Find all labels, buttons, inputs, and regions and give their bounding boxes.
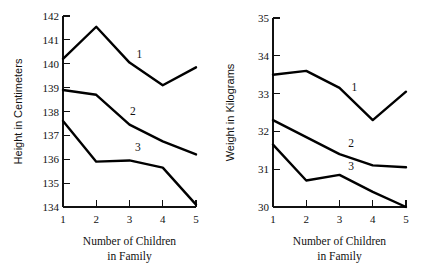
x-axis-title-line1: Number of Children bbox=[83, 235, 177, 247]
y-axis-title: Weight in Kilograms bbox=[224, 63, 236, 161]
series-line-2 bbox=[273, 120, 406, 167]
y-axis-tick-label: 141 bbox=[43, 34, 60, 46]
two-panel-line-chart-figure: 13413513613713813914014114212345123Heigh… bbox=[0, 0, 428, 265]
y-axis-tick-label: 31 bbox=[258, 163, 269, 175]
y-axis-tick-label: 134 bbox=[43, 201, 60, 213]
series-label-3: 3 bbox=[135, 141, 141, 153]
x-axis-tick-label: 4 bbox=[160, 213, 166, 225]
y-axis-tick-label: 142 bbox=[43, 10, 60, 22]
x-axis-tick-label: 4 bbox=[370, 213, 376, 225]
height-chart-panel: 13413513613713813914014114212345123Heigh… bbox=[0, 0, 214, 265]
y-axis-tick-label: 33 bbox=[258, 88, 270, 100]
x-axis-title-line1: Number of Children bbox=[293, 235, 387, 247]
height-chart-svg: 13413513613713813914014114212345123Heigh… bbox=[0, 0, 214, 265]
series-label-2: 2 bbox=[130, 105, 136, 117]
x-axis-title-line2: in Family bbox=[317, 250, 362, 263]
y-axis-tick-label: 137 bbox=[43, 129, 60, 141]
series-label-3: 3 bbox=[348, 160, 354, 172]
y-axis-tick-label: 34 bbox=[258, 50, 270, 62]
series-line-3 bbox=[63, 121, 196, 205]
y-axis-tick-label: 30 bbox=[258, 201, 270, 213]
series-label-1: 1 bbox=[137, 48, 143, 60]
y-axis-tick-label: 35 bbox=[258, 12, 270, 24]
y-axis-title: Height in Centimeters bbox=[12, 58, 24, 164]
x-axis-tick-label: 1 bbox=[60, 213, 66, 225]
x-axis-title-line2: in Family bbox=[107, 250, 152, 263]
x-axis-tick-label: 3 bbox=[337, 213, 343, 225]
y-axis-tick-label: 32 bbox=[258, 125, 269, 137]
x-axis-tick-label: 5 bbox=[403, 213, 409, 225]
series-label-1: 1 bbox=[352, 81, 358, 93]
y-axis-tick-label: 140 bbox=[43, 58, 60, 70]
y-axis-tick-label: 138 bbox=[43, 106, 60, 118]
weight-chart-panel: 30313233343512345123Weight in KilogramsN… bbox=[214, 0, 428, 265]
series-label-2: 2 bbox=[348, 137, 354, 149]
y-axis-tick-label: 136 bbox=[43, 153, 60, 165]
y-axis-tick-label: 139 bbox=[43, 82, 60, 94]
y-axis-tick-label: 135 bbox=[43, 177, 60, 189]
x-axis-tick-label: 2 bbox=[304, 213, 310, 225]
series-line-1 bbox=[63, 27, 196, 86]
x-axis-tick-label: 3 bbox=[127, 213, 133, 225]
x-axis-tick-label: 5 bbox=[193, 213, 199, 225]
x-axis-tick-label: 1 bbox=[270, 213, 276, 225]
weight-chart-svg: 30313233343512345123Weight in KilogramsN… bbox=[214, 0, 428, 265]
series-line-1 bbox=[273, 71, 406, 120]
x-axis-tick-label: 2 bbox=[94, 213, 100, 225]
